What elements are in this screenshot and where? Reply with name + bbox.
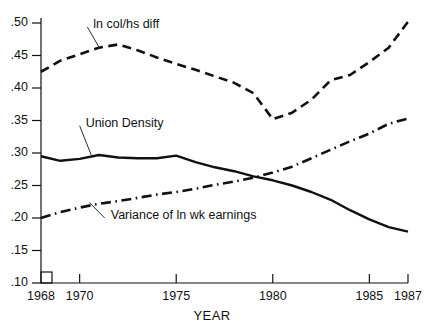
y-axis-tick-label: .20 xyxy=(0,210,28,224)
x-axis-title: YEAR xyxy=(0,308,424,323)
y-axis-tick-label: .10 xyxy=(0,275,28,289)
x-axis-tick-marks xyxy=(80,274,408,283)
x-axis-tick-label: 1975 xyxy=(159,289,193,303)
y-axis-tick-label: .45 xyxy=(0,48,28,62)
y-axis-tick-label: .40 xyxy=(0,80,28,94)
annotation-leader-line xyxy=(89,202,104,218)
annotation-leader-line xyxy=(80,126,92,155)
line-chart-plot xyxy=(0,0,424,331)
series-annotation-label: Union Density xyxy=(86,116,164,130)
y-axis-tick-label: .25 xyxy=(0,178,28,192)
x-axis-tick-label: 1980 xyxy=(256,289,290,303)
y-axis-tick-label: .30 xyxy=(0,145,28,159)
series-line-0 xyxy=(41,22,408,120)
chart-figure: .10.15.20.25.30.35.40.45.50 196819701975… xyxy=(0,0,424,331)
series-annotation-label: ln col/hs diff xyxy=(93,17,159,31)
x-axis-tick-label: 1985 xyxy=(352,289,386,303)
y-axis-tick-label: .15 xyxy=(0,243,28,257)
chart-axes xyxy=(41,18,408,283)
series-annotation-label: Variance of ln wk earnings xyxy=(111,208,257,222)
x-axis-tick-label: 1970 xyxy=(63,289,97,303)
y-axis-tick-label: .35 xyxy=(0,113,28,127)
origin-notch xyxy=(41,272,52,283)
y-axis-tick-marks xyxy=(32,23,41,283)
x-axis-tick-label: 1968 xyxy=(24,289,58,303)
y-axis-tick-label: .50 xyxy=(0,15,28,29)
x-axis-tick-label: 1987 xyxy=(391,289,424,303)
